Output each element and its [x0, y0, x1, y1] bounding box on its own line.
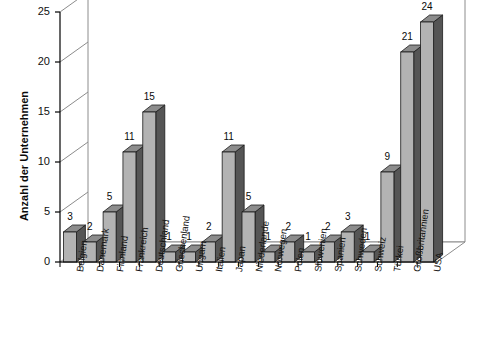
bar-value-label: 11 — [215, 131, 243, 142]
y-tick-label: 20 — [28, 55, 50, 67]
y-tick-label: 25 — [28, 5, 50, 17]
bar-value-label: 5 — [96, 191, 124, 202]
y-tick-label: 5 — [28, 205, 50, 217]
bar-value-label: 15 — [135, 91, 163, 102]
bar-value-label: 5 — [235, 191, 263, 202]
bar-value-label: 9 — [373, 151, 401, 162]
bar-value-label: 24 — [413, 1, 441, 12]
bar-value-label: 1 — [254, 231, 282, 242]
bar-value-label: 3 — [334, 211, 362, 222]
chart-plot-area — [0, 0, 479, 344]
bar-value-label: 2 — [195, 221, 223, 232]
bar-value-label: 1 — [175, 231, 203, 242]
bar-value-label: 11 — [115, 131, 143, 142]
bar-value-label: 21 — [393, 31, 421, 42]
y-tick-label: 0 — [28, 255, 50, 267]
bar-value-label: 1 — [354, 231, 382, 242]
y-tick-label: 10 — [28, 155, 50, 167]
y-tick-label: 15 — [28, 105, 50, 117]
bar-value-label: 1 — [294, 231, 322, 242]
bar-value-label: 2 — [314, 221, 342, 232]
bar-value-label: 2 — [76, 221, 104, 232]
bar-chart: Anzahl der Unternehmen 0510152025 Belgie… — [0, 0, 479, 344]
